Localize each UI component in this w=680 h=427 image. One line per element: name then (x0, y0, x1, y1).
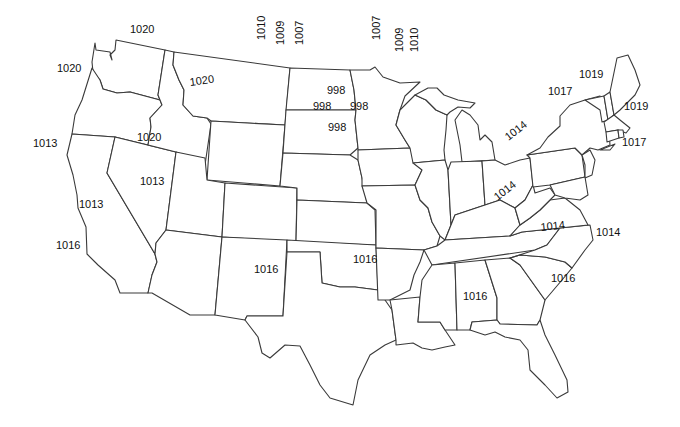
pressure-label-ca-south: 1016 (56, 240, 80, 251)
state-arizona (148, 230, 222, 315)
state-arkansas (376, 248, 424, 300)
pressure-label-nd-1007: 1007 (294, 21, 305, 45)
pressure-label-nd-1010: 1010 (256, 16, 267, 40)
state-new-mexico (215, 237, 287, 320)
pressure-label-ok: 1016 (353, 254, 377, 265)
pressure-label-me-west: 1019 (579, 69, 603, 80)
pressure-label-me-east: 1019 (624, 101, 648, 112)
pressure-label-mn-1007: 1007 (371, 16, 382, 40)
pressure-label-al: 1016 (463, 291, 487, 302)
us-states-map (0, 0, 680, 427)
pressure-label-wa-north: 1020 (130, 24, 154, 35)
state-florida (470, 320, 568, 398)
pressure-label-nm: 1016 (254, 264, 278, 275)
pressure-label-wa-west: 1020 (57, 63, 81, 74)
state-colorado (222, 183, 297, 242)
pressure-label-nc-coast: 1014 (596, 227, 620, 238)
pressure-label-ca-north: 1013 (79, 199, 103, 210)
state-south-dakota (283, 110, 358, 155)
state-michigan-lower (455, 110, 495, 162)
pressure-label-ny: 1017 (548, 86, 572, 97)
pressure-label-id-south: 1020 (137, 132, 161, 143)
pressure-label-sd-998a: 998 (313, 101, 331, 112)
pressure-label-mn-998: 998 (350, 101, 368, 112)
pressure-label-mn-1009: 1009 (394, 28, 405, 52)
pressure-label-or-south: 1013 (33, 138, 57, 149)
state-kansas (296, 200, 376, 245)
pressure-label-ri-coast: 1017 (622, 137, 646, 148)
state-mississippi (418, 263, 457, 330)
state-wyoming (207, 121, 285, 186)
pressure-label-nd-1009: 1009 (275, 21, 286, 45)
state-montana (173, 52, 290, 125)
pressure-label-mn-1010: 1010 (409, 28, 420, 52)
pressure-label-sd-998b: 998 (328, 122, 346, 133)
pressure-label-sc: 1016 (551, 273, 575, 284)
pressure-label-nv: 1013 (140, 176, 164, 187)
state-connecticut (606, 130, 619, 142)
pressure-label-nd-998: 998 (327, 85, 345, 96)
